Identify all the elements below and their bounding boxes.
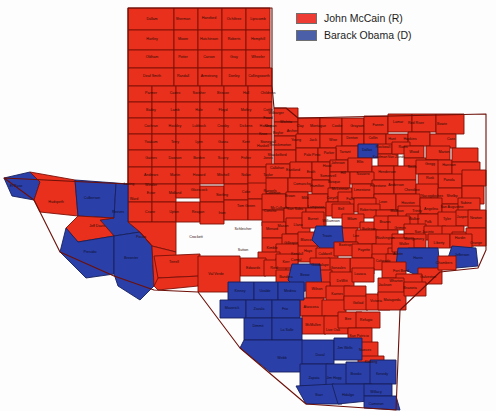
legend-label-democrat: Barack Obama (D) — [324, 30, 412, 41]
legend-item-democrat: Barack Obama (D) — [296, 28, 446, 43]
legend-label-republican: John McCain (R) — [324, 13, 403, 24]
panhandle-counties — [128, 8, 274, 224]
county-label: Sutton — [238, 248, 248, 252]
election-map-figure: DallamShermanHansfordOchiltreeLipscombHa… — [0, 0, 496, 411]
county-label: Crockett — [189, 235, 202, 239]
legend-swatch-democrat — [296, 30, 317, 41]
map-legend: John McCain (R) Barack Obama (D) — [296, 11, 446, 45]
county-dallas — [358, 144, 378, 158]
county-label: Schleicher — [235, 227, 253, 231]
legend-item-republican: John McCain (R) — [296, 11, 446, 26]
legend-swatch-republican — [296, 13, 317, 24]
texas-county-map: DallamShermanHansfordOchiltreeLipscombHa… — [0, 0, 496, 411]
